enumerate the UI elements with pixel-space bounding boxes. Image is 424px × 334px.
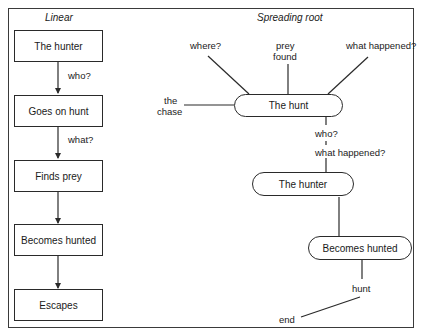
node-the-hunter: The hunter <box>252 172 354 196</box>
root-the-hunt: The hunt <box>234 94 343 117</box>
node-becomes-hunted: Becomes hunted <box>308 236 412 260</box>
linear-node-goes-on-hunt: Goes on hunt <box>14 95 103 127</box>
connector-what-happened: what happened? <box>315 147 385 158</box>
branch-found: found <box>273 51 297 62</box>
linear-node-the-hunter: The hunter <box>14 30 103 62</box>
branch-what-happened: what happened? <box>346 40 416 51</box>
label-hunt: hunt <box>352 283 371 294</box>
node-label: The hunter <box>34 41 82 52</box>
edge-label-who: who? <box>68 70 91 81</box>
label-end: end <box>279 314 295 325</box>
node-label: Becomes hunted <box>21 235 96 246</box>
branch-the: the <box>164 95 177 106</box>
connector-who: who? <box>315 128 338 139</box>
linear-node-becomes-hunted: Becomes hunted <box>14 224 103 256</box>
node-label: The hunt <box>269 100 308 111</box>
node-label: Finds prey <box>35 171 82 182</box>
node-label: The hunter <box>279 179 327 190</box>
edge-label-what: what? <box>68 134 93 145</box>
linear-title: Linear <box>45 12 73 23</box>
branch-where: where? <box>190 40 221 51</box>
branch-chase: chase <box>157 106 182 117</box>
node-label: Becomes hunted <box>322 243 397 254</box>
node-label: Escapes <box>39 300 77 311</box>
spreading-title: Spreading root <box>257 12 323 23</box>
linear-node-escapes: Escapes <box>14 289 103 321</box>
branch-prey: prey <box>276 40 294 51</box>
linear-node-finds-prey: Finds prey <box>14 160 103 192</box>
node-label: Goes on hunt <box>28 106 88 117</box>
